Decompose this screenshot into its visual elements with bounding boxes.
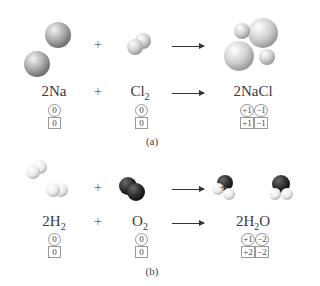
plus-sign: + <box>92 84 104 100</box>
product-formula: 2H2O <box>228 213 278 232</box>
oxidation-number: −1 <box>254 104 268 117</box>
plus-sign: + <box>92 37 104 53</box>
oxygen-atom <box>127 183 145 201</box>
oxidation-number: 0 <box>135 233 148 246</box>
chlorine-molecule <box>127 33 151 55</box>
ionic-charge: 0 <box>48 246 61 258</box>
ionic-charge: 0 <box>135 117 148 129</box>
oxygen-molecule <box>119 177 145 201</box>
oxidation-number: +1 <box>241 233 255 246</box>
chlorine-atom <box>127 39 143 55</box>
ionic-charge: 0 <box>48 117 61 129</box>
ionic-charges: +1 −1 <box>240 117 268 129</box>
reactant-formula: 2H2 <box>34 213 74 232</box>
ionic-charge: +1 <box>240 117 254 129</box>
oxidation-numbers: +1 −1 <box>240 104 268 117</box>
hydrogen-atom <box>46 183 60 197</box>
reactant-formula: Cl2 <box>125 83 155 102</box>
oxidation-number: 0 <box>135 104 148 117</box>
sodium-ion <box>259 49 275 65</box>
ionic-charges: +2 −2 <box>241 246 269 258</box>
reaction-arrow <box>172 189 204 190</box>
oxidation-number: +1 <box>240 104 254 117</box>
reactant-formula: 2Na <box>34 83 74 100</box>
oxidation-number: 0 <box>48 104 61 117</box>
oxidation-number: −2 <box>255 233 269 246</box>
oxidation-numbers: +1 −2 <box>241 233 269 246</box>
plus-sign: + <box>217 180 229 196</box>
reaction-arrow <box>172 93 204 94</box>
hydrogen-molecules <box>26 160 68 197</box>
ionic-charge: 0 <box>135 246 148 258</box>
plus-sign: + <box>92 180 104 196</box>
hydrogen-atom <box>26 165 40 179</box>
sodium-atom <box>24 51 50 77</box>
ionic-charge: −2 <box>255 246 269 258</box>
ionic-charge: −1 <box>254 117 268 129</box>
sodium-atoms <box>24 22 71 77</box>
chloride-ion <box>224 41 254 71</box>
hydrogen-atom <box>281 188 293 200</box>
reaction-arrow <box>172 223 204 224</box>
reaction-arrow <box>172 46 204 47</box>
sodium-chloride-lattice <box>224 18 278 71</box>
oxidation-number: 0 <box>48 233 61 246</box>
panel-label: (a) <box>140 135 164 147</box>
reactant-formula: O2 <box>125 213 155 232</box>
panel-label: (b) <box>140 265 164 277</box>
chloride-ion <box>248 18 278 48</box>
water-molecule <box>269 175 293 200</box>
ionic-charge: +2 <box>241 246 255 258</box>
sodium-atom <box>45 22 71 48</box>
hydrogen-atom <box>269 188 281 200</box>
sodium-ion <box>234 23 250 39</box>
plus-sign: + <box>92 214 104 230</box>
product-formula: 2NaCl <box>228 83 278 100</box>
